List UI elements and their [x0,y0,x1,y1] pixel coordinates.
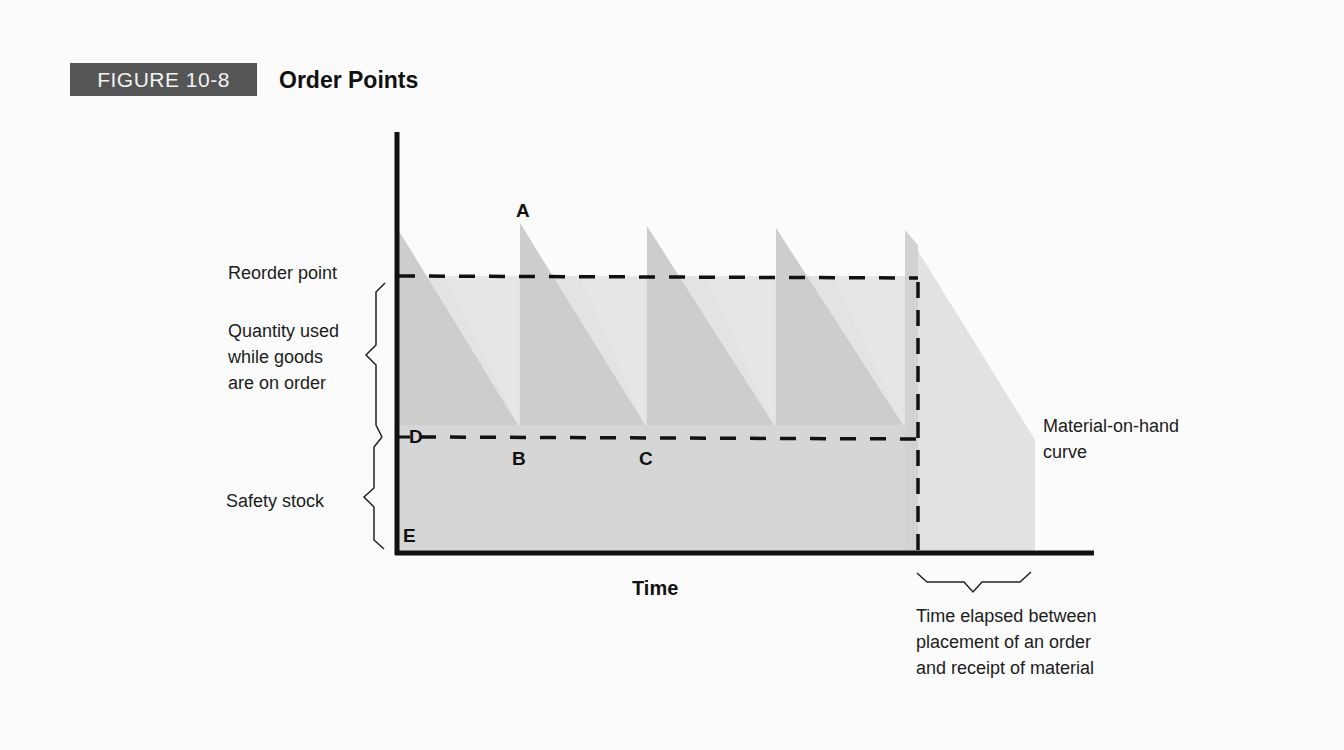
lead-time-label-line1: Time elapsed between [916,603,1096,629]
lead-time-label-line3: and receipt of material [916,655,1094,681]
material-curve-label-line1: Material-on-hand [1043,413,1179,439]
reorder-point-label: Reorder point [228,260,337,286]
lead-time-label-line2: placement of an order [916,629,1091,655]
point-b-label: B [512,448,526,470]
brace-quantity-used-icon [366,283,385,437]
safety-stock-line [420,437,918,439]
quantity-used-label-line3: are on order [228,370,326,396]
point-e-label: E [403,525,416,547]
point-a-label: A [516,200,530,222]
quantity-used-label-line2: while goods [228,344,323,370]
quantity-used-label-line1: Quantity used [228,318,339,344]
valley-band [399,425,918,553]
x-axis-title: Time [632,577,678,600]
point-c-label: C [639,448,653,470]
brace-lead-time-icon [917,572,1031,592]
safety-stock-label: Safety stock [226,488,324,514]
brace-safety-stock-icon [364,437,384,549]
material-curve-label-line2: curve [1043,439,1087,465]
point-d-label: D [409,426,423,448]
order-points-diagram [0,0,1344,750]
material-on-hand-curve [905,230,1035,553]
